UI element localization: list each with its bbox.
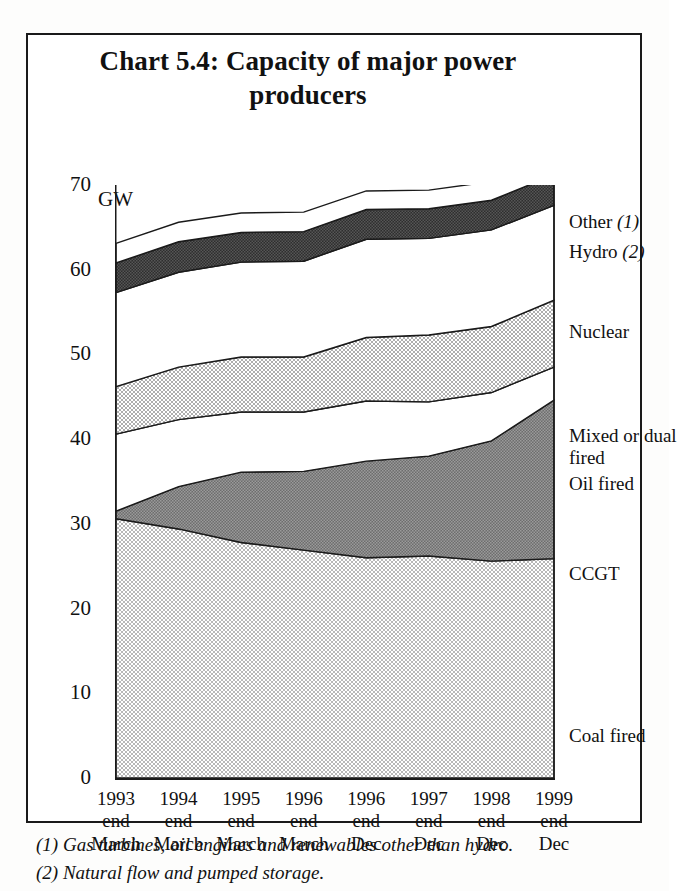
y-tick-label: 30 [49,513,91,534]
y-tick-label: 0 [49,767,91,788]
legend-label-text: Nuclear [569,321,629,342]
x-tick-label-line: end [209,810,273,832]
legend-label-text: Oil fired [569,473,634,494]
footnote-2: (2) Natural flow and pumped storage. [36,859,636,887]
legend-label-coal: Coal fired [569,725,646,748]
y-tick-label: 20 [49,598,91,619]
chart-frame: Chart 5.4: Capacity of major power produ… [26,33,642,823]
x-tick-label-line: end [272,810,336,832]
legend-label-text: fired [569,447,605,468]
legend-label-hydro: Hydro (2) [569,241,644,264]
legend-label-text: Hydro [569,241,618,262]
x-tick-label-line: end [84,810,148,832]
x-tick-label-line: 1996 [272,788,336,810]
y-tick-label: 50 [49,343,91,364]
y-tick-label: 60 [49,259,91,280]
y-tick-label: 70 [49,174,91,195]
x-tick-label-line: 1995 [209,788,273,810]
x-tick-label-line: end [522,810,586,832]
y-tick-label: 10 [49,682,91,703]
legend-footnote-marker: (2) [618,241,645,262]
footnotes: (1) Gas turbines, oil engines and renewa… [36,831,636,886]
legend-label-text: Other [569,211,612,232]
page-title-line-1: Chart 5.4: Capacity of major power [58,45,558,79]
stacked-area-chart [115,185,555,780]
x-tick-label-line: 1994 [147,788,211,810]
x-tick-label-line: 1993 [84,788,148,810]
footnote-1: (1) Gas turbines, oil engines and renewa… [36,831,636,859]
legend-label-text: Coal fired [569,725,646,746]
legend-label-nuclear: Nuclear [569,321,629,344]
x-tick-label-line: end [334,810,398,832]
x-tick-label-line: 1997 [397,788,461,810]
legend-label-text: Mixed or dual [569,425,677,446]
area-bands [116,185,554,778]
x-tick-label-line: 1999 [522,788,586,810]
x-tick-label-line: end [397,810,461,832]
legend-label-mixed2: fired [569,447,605,470]
plot-area [115,185,555,780]
y-tick-label: 40 [49,428,91,449]
x-tick-label-line: 1998 [459,788,523,810]
legend-footnote-marker: (1) [612,211,639,232]
x-tick-label-line: end [147,810,211,832]
legend-label-mixed1: Mixed or dual [569,425,677,448]
legend-label-oil: Oil fired [569,473,634,496]
legend-label-other: Other (1) [569,211,639,234]
x-tick-label-line: 1996 [334,788,398,810]
page-title: Chart 5.4: Capacity of major power produ… [58,45,558,113]
legend-label-ccgt: CCGT [569,563,620,586]
page-title-line-2: producers [58,79,558,113]
legend-label-text: CCGT [569,563,620,584]
x-tick-label-line: end [459,810,523,832]
